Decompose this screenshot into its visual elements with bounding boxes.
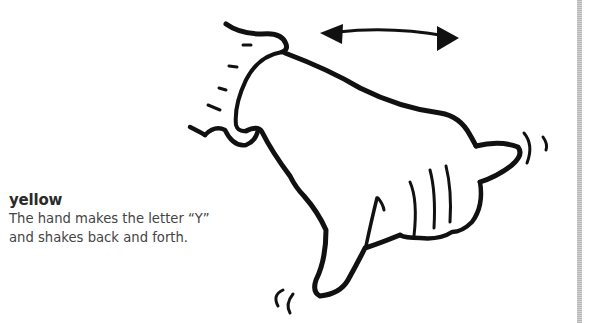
sleeve-icon	[190, 24, 287, 145]
page-margin-rule	[577, 0, 582, 323]
hand-icon	[246, 53, 520, 296]
double-arrow-icon	[320, 24, 459, 51]
hand-sign-illustration	[0, 0, 589, 323]
